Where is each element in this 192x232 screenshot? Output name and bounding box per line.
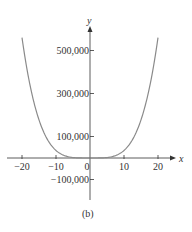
y-tick-label: 500,000 <box>57 45 90 56</box>
chart: −20−1001020500,000300,000100,000−100,000… <box>0 0 192 232</box>
y-tick-label: −100,000 <box>51 174 89 185</box>
y-tick-label: 100,000 <box>57 131 90 142</box>
x-tick-label: 10 <box>119 161 129 172</box>
x-tick-label: 0 <box>85 161 90 172</box>
x-tick-label: 20 <box>153 161 163 172</box>
figure-caption: (b) <box>82 208 94 220</box>
x-tick-label: −20 <box>14 161 30 172</box>
y-axis-label: y <box>86 15 92 26</box>
axes <box>7 26 176 200</box>
ticks: −20−1001020500,000300,000100,000−100,000 <box>14 45 163 185</box>
y-axis-arrow-icon <box>88 26 93 32</box>
y-tick-label: 300,000 <box>57 88 90 99</box>
x-axis-arrow-icon <box>170 156 176 161</box>
x-tick-label: −10 <box>48 161 64 172</box>
x-axis-label: x <box>178 153 184 164</box>
